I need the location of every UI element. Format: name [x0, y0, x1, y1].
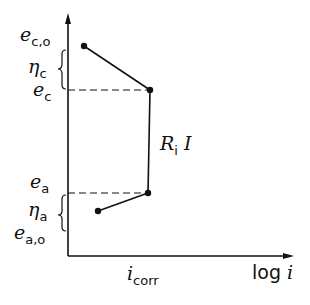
label-ea0: ea,o	[14, 223, 45, 242]
point-ec	[147, 87, 153, 93]
label-eta-a: ηa	[28, 200, 47, 219]
anodic-line	[98, 193, 148, 211]
label-ec0: ec,o	[20, 25, 50, 44]
label-ec: ec	[33, 80, 51, 99]
eta-c-brace-icon	[58, 50, 66, 89]
label-icorr: icorr	[127, 264, 159, 283]
eta-a-brace-icon	[58, 195, 66, 231]
x-axis-label: log i	[252, 263, 293, 282]
point-ea0	[95, 208, 101, 214]
label-eta-c: ηc	[28, 57, 47, 76]
point-ea	[145, 190, 151, 196]
label-ea: ea	[30, 172, 49, 191]
point-ec0	[81, 43, 87, 49]
x-axis-arrow-icon	[283, 253, 294, 259]
y-axis-arrow-icon	[65, 13, 71, 24]
label-ri-i: Ri I	[160, 134, 192, 153]
ohmic-drop-line	[148, 90, 150, 193]
cathodic-line	[84, 46, 150, 90]
